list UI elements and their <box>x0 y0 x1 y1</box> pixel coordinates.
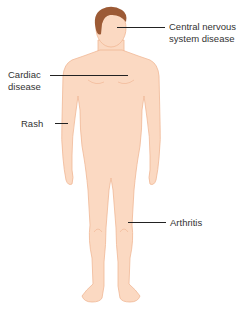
cardiac-leader-line <box>50 75 128 76</box>
arthritis-label: Arthritis <box>170 217 202 229</box>
body <box>62 9 161 302</box>
rash-label: Rash <box>21 118 43 130</box>
cardiac-label: Cardiac disease <box>8 69 41 92</box>
cns-leader-line <box>117 27 165 28</box>
arthritis-leader-line <box>128 222 166 223</box>
cns-label: Central nervous system disease <box>169 21 236 44</box>
human-body-figure <box>0 0 251 309</box>
rash-leader-line <box>55 123 68 124</box>
